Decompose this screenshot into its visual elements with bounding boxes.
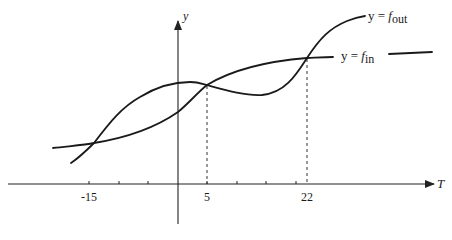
y-axis: y [178,9,189,224]
tick-labels: -15 5 22 [81,190,313,204]
t-axis: T [8,176,445,191]
tick-label-5: 5 [204,190,210,204]
label-f-in-sub: in [365,52,374,66]
label-f-out-prefix: y = [368,8,388,23]
label-f-out: y = fout [368,8,408,26]
diagram: T y -15 5 22 [0,0,452,240]
tick-label-22: 22 [301,190,313,204]
label-f-in-prefix: y = [341,48,361,63]
y-axis-label: y [182,9,189,23]
svg-text:y = fin: y = fin [341,48,374,66]
tick-label-neg15: -15 [81,190,97,204]
label-f-out-sub: out [392,12,408,26]
svg-text:y = fout: y = fout [368,8,408,26]
curve-f-in [53,52,432,148]
curve-f-out [71,16,365,163]
label-f-in: y = fin [341,48,374,66]
t-axis-label: T [437,176,445,191]
